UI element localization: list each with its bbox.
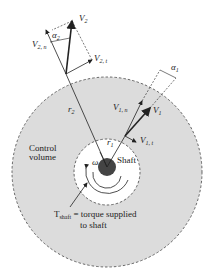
v1-label: V1 [153, 106, 162, 116]
v1t-label: V1, t [140, 136, 153, 146]
torque-label: Tshaft = torque supplied [54, 210, 137, 220]
torque-label-line2: to shaft [80, 221, 107, 230]
v1n-label: V1, n [113, 103, 128, 113]
r2-label: r2 [68, 105, 75, 115]
alpha2-label: α2 [52, 31, 60, 41]
shaft-label: Shaft [117, 156, 136, 165]
omega-label: ω [92, 158, 98, 167]
v2-vector [66, 21, 72, 74]
r1-label: r1 [107, 138, 114, 148]
v2-label: V2 [79, 14, 88, 24]
v2t-label: V2, t [94, 54, 107, 64]
v2n-label: V2, n [32, 40, 47, 50]
alpha1-label: α1 [171, 63, 179, 73]
control-volume-label: Controlvolume [29, 144, 57, 162]
